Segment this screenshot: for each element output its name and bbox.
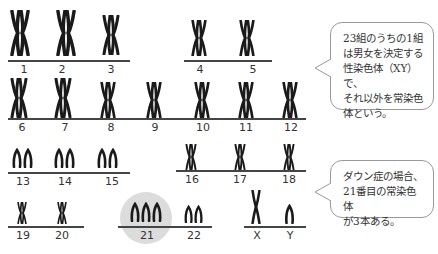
group-line-1-3 (8, 60, 130, 62)
chromosome-13 (12, 148, 34, 170)
group-line-4-5 (184, 60, 272, 62)
chromosome-1 (8, 10, 32, 56)
sex-chromosome-callout: 23組のうちの1組 は男女を決定する 性染色体（XY）で、 それ以外を常染色 体… (330, 22, 434, 110)
label-19: 19 (11, 229, 35, 242)
label-6: 6 (10, 121, 34, 134)
label-9: 9 (143, 121, 167, 134)
chromosome-3 (100, 15, 122, 55)
label-y: Y (278, 229, 302, 242)
chromosome-18 (279, 144, 299, 170)
label-16: 16 (180, 173, 204, 186)
label-1: 1 (12, 63, 36, 76)
label-22: 22 (182, 229, 206, 242)
label-8: 8 (99, 121, 123, 134)
callout-2-line-2: 21番目の常染色体 (343, 184, 425, 214)
label-15: 15 (100, 175, 124, 188)
chromosome-11 (236, 82, 256, 118)
callout-2-line-1: ダウン症の場合、 (343, 169, 425, 184)
callout-2-pointer (314, 182, 332, 202)
group-line-16-18 (176, 170, 306, 172)
label-2: 2 (50, 63, 74, 76)
label-10: 10 (191, 121, 215, 134)
group-line-xy (244, 226, 306, 228)
chromosome-y (284, 204, 295, 224)
label-11: 11 (234, 121, 258, 134)
callout-1-line-1: 23組のうちの1組 (343, 31, 425, 46)
chromosome-14 (54, 148, 76, 170)
callout-1-line-3: 性染色体（XY）で、 (343, 61, 425, 91)
chromosome-9 (144, 82, 164, 118)
chromosome-5 (236, 20, 258, 56)
label-3: 3 (99, 63, 123, 76)
chromosome-6 (8, 78, 30, 118)
chromosome-x (250, 190, 262, 224)
callout-1-line-4: それ以外を常染色 (343, 91, 425, 106)
group-line-21-22 (118, 226, 212, 228)
label-18: 18 (277, 173, 301, 186)
label-5: 5 (241, 63, 265, 76)
label-20: 20 (50, 229, 74, 242)
group-line-13-15 (8, 172, 130, 174)
label-4: 4 (188, 63, 212, 76)
label-21: 21 (135, 229, 159, 242)
chromosome-17 (230, 144, 250, 170)
chromosome-20 (52, 202, 72, 224)
chromosome-16 (181, 144, 201, 170)
label-13: 13 (11, 175, 35, 188)
chromosome-21 (130, 202, 163, 224)
callout-1-line-5: 体という。 (343, 106, 425, 121)
callout-2-line-3: が3本ある。 (343, 214, 425, 229)
chromosome-19 (12, 202, 32, 224)
callout-1-line-2: は男女を決定する (343, 46, 425, 61)
callout-1-pointer (314, 58, 332, 78)
label-12: 12 (279, 121, 303, 134)
label-17: 17 (228, 173, 252, 186)
down-syndrome-callout: ダウン症の場合、 21番目の常染色体 が3本ある。 (330, 160, 434, 218)
group-line-19-20 (8, 226, 84, 228)
label-x: X (245, 229, 269, 242)
chromosome-22 (183, 205, 205, 223)
group-line-6-12 (8, 118, 306, 120)
chromosome-2 (54, 10, 78, 56)
chromosome-7 (52, 78, 74, 118)
chromosome-12 (280, 82, 300, 118)
chromosome-4 (188, 20, 210, 56)
label-7: 7 (53, 121, 77, 134)
label-14: 14 (53, 175, 77, 188)
chromosome-10 (192, 82, 212, 118)
chromosome-15 (97, 148, 119, 170)
chromosome-8 (98, 82, 118, 118)
